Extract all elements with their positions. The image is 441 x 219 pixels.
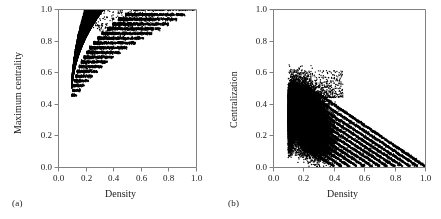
panel-sublabel-a: (a) [12, 198, 23, 208]
scatter-plot-b [216, 0, 441, 219]
figure: Density Maximum centrality (a) Density C… [0, 0, 441, 219]
y-axis-title-b: Centralization [228, 71, 239, 128]
scatter-plot-a [0, 0, 220, 219]
panel-b: Density Centralization (b) [216, 0, 436, 219]
x-axis-title-b: Density [327, 188, 358, 199]
panel-sublabel-b: (b) [228, 198, 239, 208]
panel-a: Density Maximum centrality (a) [0, 0, 220, 219]
y-axis-title-a: Maximum centrality [12, 52, 23, 134]
x-axis-title-a: Density [105, 188, 136, 199]
